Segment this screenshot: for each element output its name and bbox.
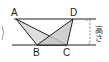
label-b: B xyxy=(33,47,40,58)
partial-curve xyxy=(2,26,4,40)
label-c: C xyxy=(63,47,70,58)
label-a: A xyxy=(11,7,18,18)
geometry-diagram: A D B C 高さ xyxy=(0,0,109,62)
height-bracket xyxy=(86,20,90,44)
label-d: D xyxy=(70,7,77,18)
height-label: 高さ xyxy=(94,25,103,42)
